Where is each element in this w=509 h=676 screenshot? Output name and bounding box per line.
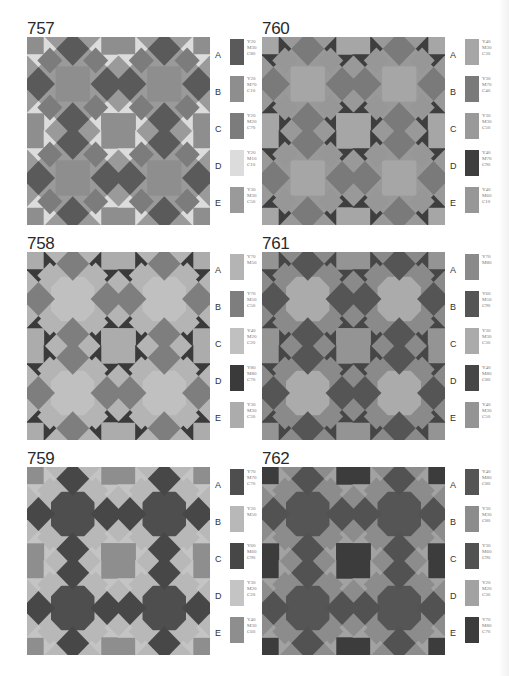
color-legend: AY40 M80 C80BY30 M30 C80CY30 M60 C90DY20…	[450, 469, 509, 654]
legend-letter: A	[215, 481, 221, 490]
cmyk-code: Y40 M80 C80	[482, 469, 491, 487]
cmyk-code: Y40 M80 C80	[482, 365, 491, 383]
legend-letter: E	[215, 629, 221, 638]
color-swatch	[465, 291, 479, 317]
cmyk-code: Y30 M60 C90	[482, 543, 491, 561]
color-swatch	[465, 39, 479, 65]
cmyk-code: Y20 M70 C10	[247, 76, 256, 94]
color-swatch	[230, 543, 244, 569]
quilt-pattern	[27, 252, 210, 440]
color-swatch	[230, 402, 244, 428]
color-swatch	[465, 617, 479, 643]
legend-letter: B	[450, 88, 456, 97]
legend-letter: A	[450, 481, 456, 490]
panel-number: 757	[27, 20, 54, 37]
cmyk-code: Y40 M70 C90	[482, 150, 491, 168]
legend-letter: B	[450, 518, 456, 527]
color-swatch	[230, 469, 244, 495]
quilt-pattern	[262, 467, 445, 655]
legend-letter: E	[450, 414, 456, 423]
cmyk-code: Y20 M30 C80	[247, 39, 256, 57]
legend-letter: B	[215, 303, 221, 312]
cmyk-code: Y40 M20 C20	[247, 328, 256, 346]
quilt-panel-762: 762AY40 M80 C80BY30 M30 C80CY30 M60 C90D…	[262, 450, 507, 670]
cmyk-code: Y30 M70 C40	[482, 76, 491, 94]
legend-letter: D	[450, 162, 457, 171]
color-swatch	[465, 506, 479, 532]
legend-letter: C	[450, 340, 457, 349]
legend-item: EY40 M30 C50	[450, 402, 509, 439]
panel-number: 762	[262, 450, 289, 467]
color-swatch	[230, 150, 244, 176]
legend-item: DY20 M20 C30	[450, 580, 509, 617]
legend-letter: D	[215, 377, 222, 386]
legend-item: BY30 M30 C80	[450, 506, 509, 543]
cmyk-code: Y70 M70 C70	[247, 469, 256, 487]
legend-item: BY60 M50 C90	[450, 291, 509, 328]
legend-item: DY40 M70 C90	[450, 150, 509, 187]
color-swatch	[465, 76, 479, 102]
legend-letter: E	[450, 199, 456, 208]
legend-letter: D	[215, 162, 222, 171]
color-swatch	[230, 187, 244, 213]
cmyk-code: Y20 M50	[247, 506, 256, 518]
panel-number: 758	[27, 235, 54, 252]
quilt-panel-757: 757AY20 M30 C80BY20 M70 C10CY20 M20 C70D…	[27, 20, 272, 240]
cmyk-code: Y70 M80	[482, 254, 491, 266]
color-swatch	[230, 291, 244, 317]
panel-number: 761	[262, 235, 289, 252]
legend-letter: E	[215, 199, 221, 208]
legend-letter: D	[215, 592, 222, 601]
color-swatch	[465, 187, 479, 213]
legend-letter: C	[215, 125, 222, 134]
cmyk-code: Y20 M10 C10	[247, 150, 256, 168]
legend-item: AY40 M80 C80	[450, 469, 509, 506]
color-swatch	[230, 328, 244, 354]
cmyk-code: Y30 M30 C50	[482, 113, 491, 131]
legend-letter: A	[215, 51, 221, 60]
cmyk-code: Y40 M60 C10	[482, 187, 491, 205]
color-swatch	[465, 469, 479, 495]
legend-letter: B	[215, 88, 221, 97]
legend-letter: D	[450, 592, 457, 601]
color-swatch	[230, 254, 244, 280]
legend-letter: D	[450, 377, 457, 386]
color-swatch	[465, 543, 479, 569]
panel-number: 759	[27, 450, 54, 467]
quilt-panel-758: 758AY70 M50BY70 M50 C50CY40 M20 C20DY80 …	[27, 235, 272, 455]
color-swatch	[230, 113, 244, 139]
quilt-pattern	[262, 252, 445, 440]
color-swatch	[465, 580, 479, 606]
legend-letter: B	[215, 518, 221, 527]
legend-letter: A	[450, 266, 456, 275]
legend-letter: C	[215, 340, 222, 349]
legend-item: AY40 M30 C30	[450, 39, 509, 76]
legend-letter: E	[215, 414, 221, 423]
legend-item: BY30 M70 C40	[450, 76, 509, 113]
panel-number: 760	[262, 20, 289, 37]
color-swatch	[465, 150, 479, 176]
color-swatch	[230, 506, 244, 532]
legend-letter: E	[450, 629, 456, 638]
quilt-pattern	[27, 467, 210, 655]
color-swatch	[465, 113, 479, 139]
cmyk-code: Y20 M20 C30	[482, 580, 491, 598]
legend-letter: C	[215, 555, 222, 564]
legend-item: AY70 M80	[450, 254, 509, 291]
quilt-panel-761: 761AY70 M80BY60 M50 C90CY30 M30 C30DY40 …	[262, 235, 507, 455]
quilt-panel-760: 760AY40 M30 C30BY30 M70 C40CY30 M30 C50D…	[262, 20, 507, 240]
legend-item: DY40 M80 C80	[450, 365, 509, 402]
cmyk-code: Y30 M30 C50	[247, 187, 256, 205]
cmyk-code: Y70 M50 C50	[247, 291, 256, 309]
legend-letter: B	[450, 303, 456, 312]
color-swatch	[465, 365, 479, 391]
legend-letter: A	[215, 266, 221, 275]
cmyk-code: Y80 M80 C70	[247, 365, 256, 383]
color-swatch	[230, 365, 244, 391]
legend-item: EY70 M80 C70	[450, 617, 509, 654]
cmyk-code: Y60 M50 C90	[482, 291, 491, 309]
cmyk-code: Y30 M20 C20	[247, 580, 256, 598]
cmyk-code: Y60 M60 C90	[247, 543, 256, 561]
cmyk-code: Y40 M30 C60	[247, 617, 256, 635]
quilt-pattern	[27, 37, 210, 225]
